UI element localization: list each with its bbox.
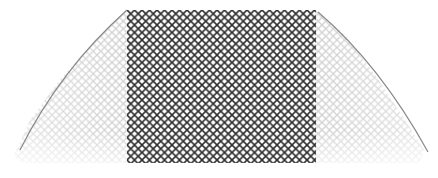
mesh-canvas xyxy=(0,0,438,178)
left-wing-panel xyxy=(14,10,127,163)
center-mesh xyxy=(127,10,316,163)
center-panel xyxy=(127,10,316,163)
mesh-figure: Trapezoidal lattice mesh with dark centr… xyxy=(0,0,438,178)
right-wing-panel xyxy=(316,10,425,163)
left-wing-bottom-fade xyxy=(14,10,127,163)
right-wing-bottom-fade xyxy=(316,10,425,163)
